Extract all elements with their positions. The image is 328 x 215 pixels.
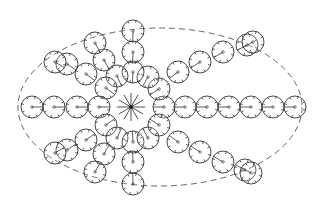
circle-unit xyxy=(122,173,144,195)
circle-unit xyxy=(75,129,97,151)
unit-group-arm-left xyxy=(21,96,88,118)
circle-unit xyxy=(167,131,189,153)
circle-unit xyxy=(44,142,66,164)
circle-unit xyxy=(212,151,234,173)
circle-unit xyxy=(148,114,170,136)
circle-unit xyxy=(21,96,43,118)
circle-unit xyxy=(174,96,196,118)
unit-group-arm-right xyxy=(174,96,306,118)
circle-unit xyxy=(75,63,97,85)
circle-unit xyxy=(84,32,106,54)
circle-unit xyxy=(122,41,144,63)
circle-unit xyxy=(212,41,234,63)
radial-layout-diagram xyxy=(0,0,328,215)
circle-unit xyxy=(218,96,240,118)
circle-unit xyxy=(284,96,306,118)
circle-unit xyxy=(196,96,218,118)
circle-unit xyxy=(189,141,211,163)
circle-unit xyxy=(122,20,144,42)
diagram-canvas xyxy=(0,0,328,215)
unit-group-arm-down-right xyxy=(167,131,262,184)
circle-unit xyxy=(43,96,65,118)
unit-group-arm-down xyxy=(122,151,144,195)
circle-unit xyxy=(84,161,106,183)
circle-unit xyxy=(242,31,264,53)
circle-unit xyxy=(66,96,88,118)
unit-group-arm-up-right xyxy=(167,31,264,83)
circle-unit xyxy=(167,61,189,83)
circle-unit xyxy=(262,96,284,118)
circle-unit xyxy=(44,51,66,73)
circular-units xyxy=(21,20,306,195)
circle-unit xyxy=(240,162,262,184)
circle-unit xyxy=(240,96,262,118)
circle-unit xyxy=(122,151,144,173)
unit-group-arm-up xyxy=(122,20,144,63)
unit-group-arm-down-left xyxy=(44,129,115,183)
center-star-icon xyxy=(117,93,145,121)
circle-unit xyxy=(189,51,211,73)
